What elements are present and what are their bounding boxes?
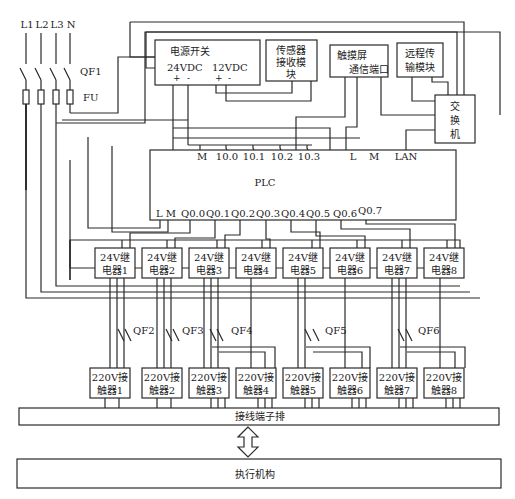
contactor-1: 220V接 触器1: [90, 368, 130, 398]
contactor-2: 220V接 触器2: [142, 368, 182, 398]
touchscreen-line1: 触摸屏: [337, 49, 367, 61]
minus-24: -: [187, 73, 190, 83]
relay-row: 24V继 电器1 24V继 电器2 24V继 电器3 24V继 电器4 24V继…: [95, 248, 464, 278]
contactor-7-line2: 触器7: [384, 384, 410, 396]
contactor-3-line2: 触器3: [196, 384, 222, 396]
touchscreen-line2: 通信端口: [349, 63, 389, 75]
relay-8-line1: 24V继: [429, 251, 459, 263]
plc-terminal-lm: L M: [156, 208, 176, 219]
relay-3-line2: 电器3: [196, 264, 222, 276]
plus-24: +: [173, 73, 181, 83]
switch-line2: 换: [450, 114, 460, 126]
touchscreen-box: 触摸屏 通信端口: [330, 45, 389, 77]
relay-7-line2: 电器7: [384, 264, 410, 276]
relay-6-line2: 电器6: [337, 264, 363, 276]
qf1-label: QF1: [80, 66, 102, 77]
minus-12: -: [228, 73, 231, 83]
sensor-module-line1: 传感器: [276, 44, 306, 56]
qf3-label: QF3: [182, 325, 204, 336]
terminal-block: 接线端子排: [19, 408, 499, 425]
label-n: N: [67, 19, 76, 30]
plus-12: +: [215, 73, 223, 83]
label-l3: L3: [50, 19, 63, 30]
relay-8: 24V继 电器8: [424, 248, 464, 278]
contactor-8-line2: 触器8: [431, 384, 457, 396]
relay-3-line1: 24V继: [194, 251, 224, 263]
contactor-5-line1: 220V接: [285, 371, 321, 383]
qf4-label: QF4: [231, 325, 253, 336]
plc-label: PLC: [254, 177, 275, 188]
relay-5-line2: 电器5: [290, 264, 316, 276]
plc-terminal-i03: 10.3: [298, 151, 320, 162]
contactor-6-line1: 220V接: [332, 371, 368, 383]
remote-module-line2: 输模块: [405, 61, 435, 73]
network-switch-box: 交 换 机: [435, 95, 475, 143]
output-12vdc: 12VDC: [212, 62, 248, 73]
sensor-module-line2: 接收模: [276, 56, 306, 68]
relay-2-line1: 24V继: [147, 251, 177, 263]
contactor-7: 220V接 触器7: [377, 368, 417, 398]
contactor-3-line1: 220V接: [191, 371, 227, 383]
plc-terminal-q03: Q0.3: [256, 208, 280, 219]
relay-6: 24V继 电器6: [330, 248, 370, 278]
label-l1: L1: [20, 19, 33, 30]
switch-line1: 交: [450, 100, 460, 112]
relay-2-line2: 电器2: [149, 264, 175, 276]
plc-terminal-q07: Q0.7: [358, 205, 382, 216]
contactor-6-line2: 触器6: [337, 384, 363, 396]
breakers: QF2 QF3 QF4 QF5 QF6: [118, 325, 465, 368]
plc-terminal-q05: Q0.5: [306, 208, 330, 219]
relay-4-line2: 电器4: [243, 264, 269, 276]
power-switch-box: 电源开关 24VDC 12VDC + - + -: [155, 40, 260, 85]
plc-terminal-q02: Q0.2: [231, 208, 255, 219]
plc-terminal-m2: M: [369, 151, 379, 162]
contactor-4-line1: 220V接: [238, 371, 274, 383]
plc-wiring-diagram: L1 L2 L3 N QF1 FU: [0, 0, 515, 499]
relay-6-line1: 24V继: [335, 251, 365, 263]
contactor-2-line2: 触器2: [149, 384, 175, 396]
plc-output-wiring: [122, 220, 455, 248]
output-24vdc: 24VDC: [167, 62, 203, 73]
contactor-1-line1: 220V接: [92, 371, 128, 383]
fu-label: FU: [83, 92, 98, 103]
plc-terminal-q01: Q0.1: [206, 208, 230, 219]
contactor-4: 220V接 触器4: [236, 368, 276, 398]
relay-5: 24V继 电器5: [283, 248, 323, 278]
plc-terminal-i01: 10.1: [243, 151, 265, 162]
plc-box: M 10.0 10.1 10.2 10.3 L M LAN PLC L M Q0…: [150, 150, 456, 220]
contactor-4-line2: 触器4: [243, 384, 269, 396]
contactor-8-line1: 220V接: [426, 371, 462, 383]
relay-8-line2: 电器8: [431, 264, 457, 276]
bidirectional-arrow-icon: [238, 427, 258, 457]
contactor-1-line2: 触器1: [97, 384, 123, 396]
contactor-8: 220V接 触器8: [424, 368, 464, 398]
relay-5-line1: 24V继: [288, 251, 318, 263]
plc-terminal-m: M: [197, 151, 207, 162]
plc-terminal-i00: 10.0: [216, 151, 238, 162]
relay-1-line2: 电器1: [102, 264, 128, 276]
actuator-box: 执行机构: [17, 459, 501, 488]
qf2-label: QF2: [133, 325, 155, 336]
contactor-7-line1: 220V接: [379, 371, 415, 383]
top-wiring: [62, 22, 464, 155]
sensor-module-line3: 块: [286, 69, 296, 80]
actuator-label: 执行机构: [235, 468, 275, 480]
relay-7-line1: 24V继: [382, 251, 412, 263]
switch-line3: 机: [450, 128, 460, 140]
plc-terminal-q00: Q0.0: [181, 208, 205, 219]
qf6-label: QF6: [418, 325, 440, 336]
plc-terminal-l: L: [350, 151, 357, 162]
power-switch-title: 电源开关: [170, 45, 210, 57]
qf5-label: QF5: [325, 325, 347, 336]
remote-module-line1: 远程传: [405, 48, 435, 59]
relay-4: 24V继 电器4: [236, 248, 276, 278]
label-l2: L2: [35, 19, 48, 30]
contactor-row: 220V接 触器1 220V接 触器2 220V接 触器3 220V接 触器4 …: [90, 368, 464, 398]
contactor-6: 220V接 触器6: [330, 368, 370, 398]
relay-1: 24V继 电器1: [95, 248, 135, 278]
contactor-2-line1: 220V接: [144, 371, 180, 383]
relay-1-line1: 24V继: [100, 251, 130, 263]
plc-terminal-q04: Q0.4: [281, 208, 305, 219]
plc-terminal-i02: 10.2: [271, 151, 293, 162]
plc-terminal-lan: LAN: [395, 151, 418, 162]
